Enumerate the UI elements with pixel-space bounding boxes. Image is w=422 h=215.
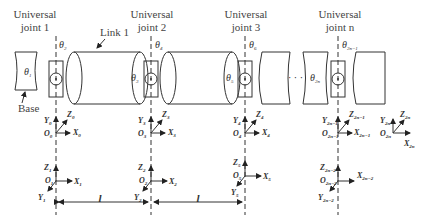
svg-text:O2n−2: O2n−2: [320, 176, 337, 186]
svg-text:X2n: X2n: [403, 139, 415, 149]
svg-text:Z5: Z5: [232, 158, 241, 168]
svg-text:Universal: Universal: [14, 8, 57, 20]
svg-text:O2n: O2n: [380, 129, 391, 139]
frame-2: Z2 X2 Y2 O2: [134, 163, 177, 203]
svg-text:O0: O0: [44, 129, 53, 139]
link-1-pointer: [97, 39, 105, 48]
svg-text:Z0: Z0: [66, 110, 75, 120]
end-link: [353, 52, 385, 104]
svg-text:Y5: Y5: [231, 188, 239, 198]
link-n-broken: [303, 52, 328, 104]
svg-text:O5: O5: [233, 171, 242, 181]
svg-text:Universal: Universal: [319, 8, 362, 20]
theta-5-label: θ5: [226, 72, 234, 84]
svg-text:joint 3: joint 3: [231, 21, 261, 33]
svg-text:O2: O2: [139, 176, 148, 186]
svg-text:O4: O4: [233, 129, 242, 139]
theta-1-label: θ1: [24, 66, 31, 78]
ellipsis: · · ·: [288, 72, 303, 83]
svg-text:Y2n: Y2n: [380, 116, 390, 126]
svg-text:Universal: Universal: [225, 8, 268, 20]
svg-text:Y4: Y4: [233, 116, 241, 126]
universal-joint-n: [331, 61, 345, 97]
frame-5: Z5 X5 Y5 O5: [231, 158, 271, 198]
svg-text:Universal: Universal: [131, 8, 174, 20]
svg-text:Y2n−2: Y2n−2: [318, 193, 334, 203]
svg-text:Y1: Y1: [38, 193, 45, 203]
theta-4-label: θ4: [155, 39, 163, 51]
svg-text:Z2n−1: Z2n−1: [348, 110, 365, 120]
svg-text:X2: X2: [168, 177, 177, 187]
joint-1-label: Universal joint 1: [14, 8, 57, 33]
joint-2-label: Universal joint 2: [131, 8, 174, 33]
dimension-l-2: l: [153, 192, 242, 205]
svg-text:O3: O3: [138, 129, 147, 139]
theta-3-label: θ3: [131, 72, 139, 84]
frame-0: Y0 Z0 X0 O0: [44, 110, 81, 139]
svg-text:joint 2: joint 2: [137, 21, 166, 33]
universal-joint-1: [49, 61, 63, 97]
theta-6-label: θ6: [249, 39, 257, 51]
svg-text:X1: X1: [73, 177, 82, 187]
svg-text:Z2n−2: Z2n−2: [319, 163, 336, 173]
joint-3-label: Universal joint 3: [225, 8, 268, 33]
joint-n-label: Universal joint n: [319, 8, 362, 33]
theta-2n-label: θ2n: [310, 72, 320, 84]
base-label: Base: [18, 102, 40, 114]
link-1-label: Link 1: [100, 26, 129, 38]
universal-joint-2: [144, 61, 158, 97]
svg-text:Z3: Z3: [161, 110, 170, 120]
link-3-broken: [259, 52, 290, 104]
svg-text:joint 1: joint 1: [20, 21, 49, 33]
frame-2n: Y2n Z2n X2n O2n: [380, 110, 415, 149]
svg-text:X2n−1: X2n−1: [353, 128, 370, 138]
theta-2-label: θ2: [59, 39, 67, 51]
svg-text:O1: O1: [45, 176, 53, 186]
svg-text:X0: X0: [72, 128, 81, 138]
svg-text:Z2: Z2: [137, 163, 146, 173]
svg-text:Z2n: Z2n: [399, 110, 410, 120]
svg-text:Y2n−1: Y2n−1: [322, 116, 338, 126]
frame-2n-1: Y2n−1 Z2n−1 X2n−1 O2n−1: [322, 110, 370, 139]
svg-text:Y0: Y0: [44, 116, 52, 126]
svg-text:X3: X3: [167, 128, 176, 138]
frame-1: Z1 X1 Y1 O1: [38, 163, 82, 203]
serial-universal-joint-diagram: Universal joint 1 Link 1 Universal joint…: [0, 0, 422, 215]
svg-text:Z4: Z4: [255, 110, 264, 120]
svg-text:X4: X4: [261, 128, 270, 138]
svg-text:Z1: Z1: [43, 163, 51, 173]
frame-2n-2: Z2n−2 X2n−2 Y2n−2 O2n−2: [318, 163, 374, 203]
svg-text:joint n: joint n: [325, 21, 355, 33]
frame-4: Y4 Z4 X4 O4: [233, 110, 270, 139]
svg-text:X5: X5: [262, 172, 271, 182]
theta-2n-1-label: θ2n−1: [342, 39, 358, 51]
svg-text:Y3: Y3: [138, 116, 146, 126]
frame-3: Y3 Z3 X3 O3: [138, 110, 176, 139]
svg-text:X2n−2: X2n−2: [356, 171, 374, 181]
svg-text:O2n−1: O2n−1: [322, 129, 339, 139]
